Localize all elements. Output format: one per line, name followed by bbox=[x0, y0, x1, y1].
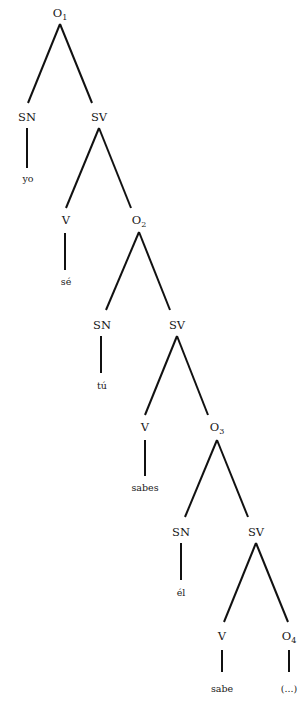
edge-sv3-o4 bbox=[256, 543, 288, 622]
syntax-tree-diagram: O1 SN SV yo V O2 sé SN SV tú V O3 sabes … bbox=[0, 0, 308, 705]
node-v-1: V bbox=[61, 213, 71, 227]
edge-sv2-v2 bbox=[145, 336, 177, 415]
leaf-sabes: sabes bbox=[131, 482, 158, 493]
node-o1: O1 bbox=[53, 6, 68, 22]
edge-sv3-v3 bbox=[224, 543, 256, 622]
node-o3: O3 bbox=[210, 420, 225, 436]
tree-edges bbox=[27, 24, 289, 672]
edge-o2-sn2 bbox=[106, 232, 139, 310]
node-o2: O2 bbox=[132, 213, 147, 229]
subscript: 2 bbox=[141, 220, 146, 229]
node-sn-3: SN bbox=[172, 525, 190, 539]
node-sv-1: SV bbox=[91, 110, 108, 124]
node-sv-2: SV bbox=[169, 318, 186, 332]
node-sn-2: SN bbox=[93, 318, 111, 332]
leaf-tu: tú bbox=[97, 380, 107, 391]
edge-sv1-o2 bbox=[99, 128, 131, 208]
edge-o2-sv2 bbox=[139, 232, 170, 310]
leaf-sabe: sabe bbox=[211, 683, 234, 694]
leaf-se: sé bbox=[61, 276, 72, 287]
node-o4: O4 bbox=[282, 629, 297, 645]
subscript: 4 bbox=[291, 636, 296, 645]
node-sn-1: SN bbox=[18, 110, 36, 124]
node-v-3: V bbox=[217, 629, 227, 643]
tree-nodes: O1 SN SV yo V O2 sé SN SV tú V O3 sabes … bbox=[18, 6, 297, 694]
edge-o1-sv1 bbox=[60, 24, 92, 103]
subscript: 1 bbox=[62, 13, 67, 22]
node-v-2: V bbox=[140, 420, 150, 434]
edge-o1-sn1 bbox=[28, 24, 60, 103]
edge-o3-sv3 bbox=[217, 440, 248, 517]
leaf-yo: yo bbox=[21, 173, 33, 184]
edge-sv2-o3 bbox=[177, 336, 208, 415]
leaf-ellipsis: (...) bbox=[281, 683, 297, 694]
node-sv-3: SV bbox=[248, 525, 265, 539]
edge-o3-sn3 bbox=[185, 440, 217, 517]
edge-sv1-v1 bbox=[66, 128, 99, 208]
leaf-el: él bbox=[177, 587, 186, 598]
subscript: 3 bbox=[219, 427, 224, 436]
